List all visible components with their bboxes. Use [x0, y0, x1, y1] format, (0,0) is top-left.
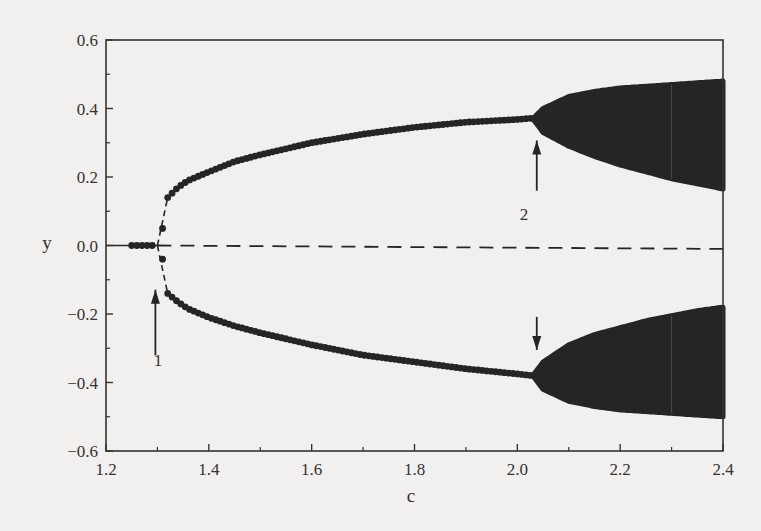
plot-area	[106, 81, 723, 417]
x-tick-label: 1.2	[95, 460, 116, 479]
y-tick-label: 0.0	[77, 237, 98, 256]
arrow-2-down-icon-head	[532, 336, 541, 350]
y-tick-label: −0.4	[67, 374, 98, 393]
y-axis-label: y	[42, 232, 52, 253]
y-tick-label: 0.2	[77, 168, 98, 187]
data-point	[149, 242, 156, 249]
y-tick-label: 0.4	[77, 100, 99, 119]
unstable-zero-line	[157, 246, 723, 249]
x-tick-label: 1.8	[404, 460, 425, 479]
x-tick-label: 2.4	[712, 460, 734, 479]
data-point	[159, 256, 166, 263]
data-point	[159, 225, 166, 232]
y-tick-label: 0.6	[77, 31, 98, 50]
arrow-1-icon-head	[151, 290, 160, 304]
y-tick-label: −0.2	[67, 305, 98, 324]
x-tick-label: 2.2	[610, 460, 631, 479]
transient-connector	[157, 246, 167, 294]
annotation-label-2: 2	[520, 205, 529, 224]
arrow-2-up-icon-head	[532, 140, 541, 154]
bifurcation-chart: 1.21.41.61.82.02.22.40.60.40.20.0−0.2−0.…	[0, 0, 761, 531]
x-tick-label: 2.0	[507, 460, 528, 479]
x-axis-label: c	[407, 485, 415, 506]
y-tick-label: −0.6	[67, 442, 98, 461]
chaotic-band	[533, 81, 723, 189]
transient-connector	[157, 198, 167, 246]
x-tick-label: 1.6	[301, 460, 322, 479]
x-tick-label: 1.4	[198, 460, 220, 479]
chaotic-band	[533, 307, 723, 417]
